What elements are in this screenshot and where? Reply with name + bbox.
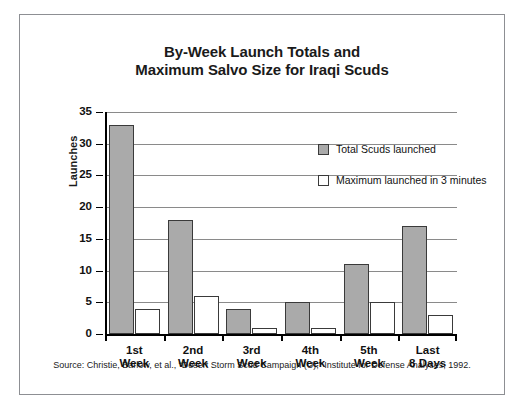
legend-swatch-total-icon xyxy=(318,144,329,155)
x-axis-tick xyxy=(222,334,224,341)
x-axis-category-line: 1st xyxy=(105,344,164,357)
chart-legend: Total Scuds launched Maximum launched in… xyxy=(318,143,487,205)
y-axis-tick xyxy=(96,175,103,176)
x-axis-category-line: Week xyxy=(281,357,340,370)
y-axis-label: 35 xyxy=(66,105,92,117)
bar-max xyxy=(428,315,453,334)
y-axis-tick xyxy=(96,112,103,113)
x-axis-category-label: 3rdWeek xyxy=(222,344,281,370)
x-axis-tick xyxy=(105,334,107,341)
gridline xyxy=(107,207,457,208)
chart-title-line-1: By-Week Launch Totals and xyxy=(20,43,504,61)
y-axis-label: 0 xyxy=(66,327,92,339)
x-axis-category-line: 5th xyxy=(340,344,399,357)
bar-max xyxy=(311,328,336,334)
chart-frame: By-Week Launch Totals and Maximum Salvo … xyxy=(19,14,505,395)
x-axis-tick xyxy=(455,334,457,341)
legend-swatch-max-icon xyxy=(318,175,329,186)
x-axis-tick xyxy=(164,334,166,341)
y-axis-label: 25 xyxy=(66,168,92,180)
legend-item-total: Total Scuds launched xyxy=(318,143,487,155)
bar-max xyxy=(252,328,277,334)
y-axis-tick xyxy=(96,271,103,272)
x-axis-category-label: 4thWeek xyxy=(281,344,340,370)
y-axis-tick xyxy=(96,302,103,303)
y-axis-tick xyxy=(96,334,103,335)
y-axis-line xyxy=(105,112,107,334)
bar-total xyxy=(168,220,193,334)
x-axis-category-line: Week xyxy=(164,357,223,370)
bar-max xyxy=(194,296,219,334)
x-axis-category-label: 5thWeek xyxy=(340,344,399,370)
x-axis-tick xyxy=(281,334,283,341)
x-axis-category-line: 4th xyxy=(281,344,340,357)
y-axis-tick xyxy=(96,207,103,208)
x-axis-category-label: 1stWeek xyxy=(105,344,164,370)
x-axis-category-line: Week xyxy=(105,357,164,370)
y-axis-label: 15 xyxy=(66,232,92,244)
legend-label-total: Total Scuds launched xyxy=(336,143,436,155)
bar-total xyxy=(109,125,134,334)
bar-max xyxy=(135,309,160,334)
chart-title: By-Week Launch Totals and Maximum Salvo … xyxy=(20,43,504,79)
chart-title-line-2: Maximum Salvo Size for Iraqi Scuds xyxy=(20,61,504,79)
x-axis-category-line: 8 Days xyxy=(398,357,457,370)
x-axis-category-line: Last xyxy=(398,344,457,357)
x-axis-category-line: Week xyxy=(222,357,281,370)
y-axis-tick xyxy=(96,239,103,240)
x-axis-tick xyxy=(398,334,400,341)
y-axis-label: 20 xyxy=(66,200,92,212)
x-axis-tick xyxy=(340,334,342,341)
x-axis-category-label: Last8 Days xyxy=(398,344,457,370)
x-axis-category-line: 2nd xyxy=(164,344,223,357)
gridline xyxy=(107,112,457,113)
legend-label-max: Maximum launched in 3 minutes xyxy=(336,174,487,186)
y-axis-tick xyxy=(96,144,103,145)
x-axis-category-label: 2ndWeek xyxy=(164,344,223,370)
x-axis-category-line: 3rd xyxy=(222,344,281,357)
legend-item-max: Maximum launched in 3 minutes xyxy=(318,174,487,186)
bar-max xyxy=(370,302,395,334)
bar-total xyxy=(285,302,310,334)
y-axis-label: 10 xyxy=(66,264,92,276)
y-axis-label: 5 xyxy=(66,295,92,307)
bar-total xyxy=(402,226,427,334)
x-axis-category-line: Week xyxy=(340,357,399,370)
bar-total xyxy=(344,264,369,334)
bar-total xyxy=(226,309,251,334)
y-axis-label: 30 xyxy=(66,137,92,149)
